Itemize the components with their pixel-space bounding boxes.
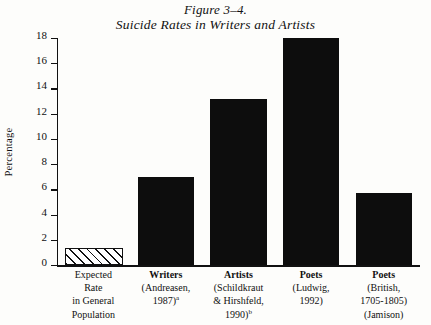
category-label-line: (Schildkraut [202, 281, 275, 294]
category-label-line: (Jamison) [347, 308, 420, 321]
category-label: Artists(Schildkraut& Hirshfeld,1990)b [202, 268, 275, 321]
bar [65, 248, 123, 265]
footnote-marker: a [176, 294, 179, 302]
category-label-line: Poets [275, 268, 348, 281]
category-label: Poets(British,1705-1805)(Jamison) [347, 268, 420, 321]
category-label-line: 1990)b [202, 308, 275, 321]
category-label-line: in General [57, 294, 130, 307]
category-label-line: & Hirshfeld, [202, 294, 275, 307]
category-label-line: 1992) [275, 294, 348, 307]
category-label-line: Rate [57, 281, 130, 294]
figure-container: Figure 3–4. Suicide Rates in Writers and… [0, 0, 431, 325]
category-label-line: Population [57, 308, 130, 321]
category-label-line: 1987)a [130, 294, 203, 307]
category-label: ExpectedRatein GeneralPopulation [57, 268, 130, 321]
x-axis-line [57, 265, 420, 267]
category-label-line: Writers [130, 268, 203, 281]
y-tick-label: 14 [36, 80, 47, 91]
bar [283, 38, 339, 265]
x-axis-category-labels: ExpectedRatein GeneralPopulationWriters(… [57, 268, 420, 325]
category-label-line: 1705-1805) [347, 294, 420, 307]
bar [210, 99, 266, 265]
footnote-marker: b [248, 307, 252, 315]
y-tick-label: 12 [36, 106, 47, 117]
y-tick-label: 10 [36, 131, 47, 142]
y-axis-label: Percentage [3, 127, 14, 176]
category-label: Writers(Andreasen,1987)a [130, 268, 203, 308]
figure-number: Figure 3–4. [0, 2, 431, 17]
y-tick-mark [51, 265, 57, 266]
category-label-line: Artists [202, 268, 275, 281]
category-label-line: (Andreasen, [130, 281, 203, 294]
y-axis-label-holder: Percentage [10, 38, 24, 265]
y-tick-label: 0 [42, 257, 48, 268]
figure-caption: Suicide Rates in Writers and Artists [0, 17, 431, 33]
y-tick-label: 18 [36, 30, 47, 41]
bar-series [57, 38, 420, 265]
y-tick-label: 16 [36, 55, 47, 66]
category-label-line: (British, [347, 281, 420, 294]
y-tick-label: 2 [42, 232, 48, 243]
plot-area: 024681012141618 [57, 38, 420, 265]
y-tick-label: 6 [42, 181, 48, 192]
category-label-line: Poets [347, 268, 420, 281]
category-label: Poets(Ludwig,1992) [275, 268, 348, 308]
bar [356, 193, 412, 265]
category-label-line: (Ludwig, [275, 281, 348, 294]
category-label-line: Expected [57, 268, 130, 281]
figure-title: Figure 3–4. Suicide Rates in Writers and… [0, 2, 431, 33]
y-tick-label: 4 [42, 207, 48, 218]
y-tick-label: 8 [42, 156, 48, 167]
bar [138, 177, 194, 265]
